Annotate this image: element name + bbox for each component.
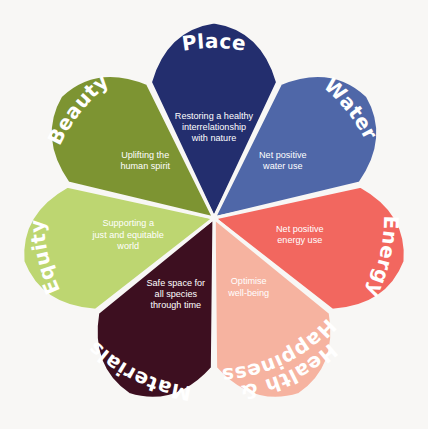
petal-description-water: Net positivewater use (259, 150, 307, 171)
petal-wheel-svg: PlaceRestoring a healthyinterrelationshi… (0, 0, 428, 429)
petal-layer: PlaceRestoring a healthyinterrelationshi… (23, 22, 406, 406)
petal-title-place: Place (180, 29, 248, 56)
petal-description-energy: Net positiveenergy use (276, 224, 324, 245)
petal-diagram: PlaceRestoring a healthyinterrelationshi… (0, 0, 428, 429)
petal-description-materials: Safe space forall speciesthrough time (146, 278, 205, 310)
petal-description-beauty: Uplifting thehuman spirit (120, 150, 170, 171)
petal-description-health-happiness: Optimisewell-being (227, 276, 269, 297)
